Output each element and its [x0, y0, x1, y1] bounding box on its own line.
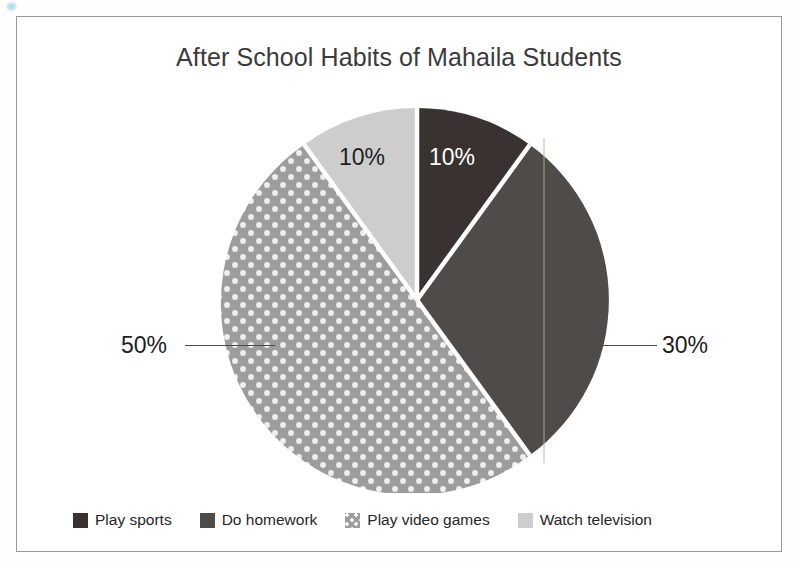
chart-title: After School Habits of Mahaila Students [17, 43, 781, 72]
chart-frame: After School Habits of Mahaila Students [16, 16, 782, 552]
pie-label-play-sports: 10% [429, 144, 475, 171]
legend-label-do-homework: Do homework [222, 511, 318, 529]
legend-item-play-video-games: Play video games [345, 511, 489, 529]
pie-label-play-video-games: 50% [121, 332, 167, 359]
legend-label-play-video-games: Play video games [367, 511, 489, 529]
legend-swatch-watch-television [518, 513, 533, 528]
legend-label-play-sports: Play sports [95, 511, 172, 529]
pie-chart [207, 93, 627, 493]
legend-item-watch-television: Watch television [518, 511, 652, 529]
legend-item-play-sports: Play sports [73, 511, 172, 529]
legend-item-do-homework: Do homework [200, 511, 318, 529]
pie-label-watch-television: 10% [339, 144, 385, 171]
scan-artifact-speck [6, 2, 17, 11]
chart-legend: Play sports Do homework Play video games… [73, 505, 773, 535]
legend-label-watch-television: Watch television [540, 511, 652, 529]
legend-swatch-do-homework [200, 513, 215, 528]
pie-chart-svg [207, 93, 627, 493]
pie-label-do-homework: 30% [662, 332, 708, 359]
legend-swatch-play-video-games [345, 513, 360, 528]
page-canvas: After School Habits of Mahaila Students [0, 0, 800, 566]
leader-line-play-video-games [185, 345, 275, 346]
leader-line-do-homework [562, 345, 657, 346]
legend-swatch-play-sports [73, 513, 88, 528]
